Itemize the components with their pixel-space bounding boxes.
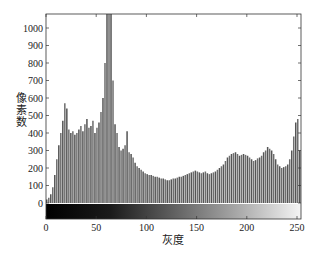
histogram-bar — [279, 166, 281, 203]
histogram-bar — [92, 121, 94, 203]
histogram-bar — [126, 131, 128, 203]
histogram-bar — [205, 172, 207, 204]
histogram-bar — [118, 147, 120, 203]
histogram-bar — [207, 173, 209, 203]
histogram-bar — [158, 178, 160, 203]
y-tick-label: 900 — [28, 40, 43, 51]
histogram-bar — [287, 165, 289, 204]
histogram-bar — [142, 172, 144, 204]
histogram-bar — [257, 158, 259, 203]
histogram-bar — [134, 163, 136, 203]
y-tick-label: 300 — [28, 145, 43, 156]
histogram-bar — [76, 133, 78, 203]
histogram-bar — [70, 133, 72, 203]
histogram-bar — [265, 151, 267, 204]
y-axis-label: 像素数 — [14, 92, 28, 128]
y-tick-label: 100 — [28, 180, 43, 191]
y-tick-label: 600 — [28, 93, 43, 104]
histogram-bar — [54, 175, 56, 203]
histogram-bar — [241, 155, 243, 203]
histogram-bar — [203, 172, 205, 203]
histogram-bar — [132, 158, 134, 204]
histogram-bar — [255, 160, 257, 203]
y-tick-label: 400 — [28, 128, 43, 139]
histogram-bar — [146, 174, 148, 203]
histogram-bar — [179, 177, 181, 203]
histogram-bar — [297, 119, 299, 203]
histogram-bar — [164, 179, 166, 203]
histogram-bar — [162, 179, 164, 204]
histogram-bar — [181, 177, 183, 203]
histogram-bar — [261, 156, 263, 203]
histogram-bar — [291, 151, 293, 204]
histogram-bar — [48, 198, 50, 203]
histogram-bar — [90, 126, 92, 203]
x-tick-label: 150 — [189, 222, 204, 233]
histogram-bar — [168, 180, 170, 203]
histogram-bar — [187, 174, 189, 203]
x-tick-label: 250 — [290, 222, 305, 233]
histogram-bar — [116, 133, 118, 203]
histogram-bar — [58, 145, 60, 203]
histogram-bar — [138, 168, 140, 203]
histogram-bar — [209, 174, 211, 203]
y-tick-label: 500 — [28, 110, 43, 121]
histogram-bar — [62, 121, 64, 203]
histogram-bar — [243, 154, 245, 203]
histogram-bar — [106, 11, 108, 204]
histogram-bar — [74, 135, 76, 203]
histogram-bar — [281, 168, 283, 203]
histogram-bar — [277, 165, 279, 204]
histogram-bar — [140, 170, 142, 203]
histogram-bar — [191, 172, 193, 203]
histogram-bar — [233, 153, 235, 203]
histogram-bar — [213, 172, 215, 203]
histogram-bar — [221, 166, 223, 203]
histogram-bar — [245, 155, 247, 203]
histogram-bar — [285, 166, 287, 203]
histogram-bar — [223, 165, 225, 204]
histogram-bar — [273, 154, 275, 203]
histogram-bar — [197, 172, 199, 204]
histogram-bars — [46, 11, 303, 204]
histogram-bar — [201, 173, 203, 203]
histogram-bar — [189, 173, 191, 203]
histogram-bar — [156, 177, 158, 203]
grayscale-colorbar — [46, 204, 301, 219]
histogram-bar — [166, 180, 168, 203]
histogram-bar — [263, 152, 265, 203]
y-tick-label: 0 — [38, 198, 43, 209]
histogram-bar — [269, 149, 271, 203]
histogram-bar — [229, 156, 231, 203]
histogram-bar — [199, 172, 201, 203]
histogram-bar — [249, 158, 251, 204]
histogram-bar — [78, 130, 80, 204]
histogram-bar — [66, 109, 68, 204]
x-tick-label: 50 — [91, 222, 101, 233]
histogram-bar — [259, 158, 261, 204]
x-tick-label: 100 — [139, 222, 154, 233]
histogram-bar — [80, 126, 82, 203]
x-tick-label: 0 — [44, 222, 49, 233]
x-axis-label: 灰度 — [162, 233, 184, 247]
histogram-bar — [144, 173, 146, 203]
histogram-bar — [225, 161, 227, 203]
histogram-bar — [128, 152, 130, 203]
histogram-bar — [215, 172, 217, 204]
y-tick-label: 700 — [28, 75, 43, 86]
histogram-bar — [173, 179, 175, 204]
histogram-bar — [253, 161, 255, 203]
histogram-bar — [293, 137, 295, 204]
histogram-bar — [217, 170, 219, 203]
histogram-bar — [64, 103, 66, 203]
histogram-bar — [193, 172, 195, 204]
histogram-bar — [120, 151, 122, 204]
histogram-bar — [239, 156, 241, 203]
histogram-bar — [110, 11, 112, 204]
histogram-bar — [100, 112, 102, 203]
histogram-bar — [237, 154, 239, 203]
histogram-bar — [175, 179, 177, 204]
histogram-bar — [171, 179, 173, 203]
histogram-bar — [72, 131, 74, 203]
histogram-bar — [148, 175, 150, 203]
